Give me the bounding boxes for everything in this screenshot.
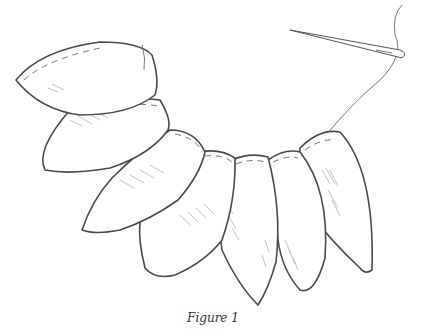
petal-necklace-drawing	[0, 0, 426, 336]
needle-icon	[290, 30, 405, 58]
thread	[322, 5, 402, 140]
petal-1	[16, 42, 157, 115]
figure-caption: Figure 1	[0, 311, 426, 325]
illustration: Figure 1	[0, 0, 426, 336]
